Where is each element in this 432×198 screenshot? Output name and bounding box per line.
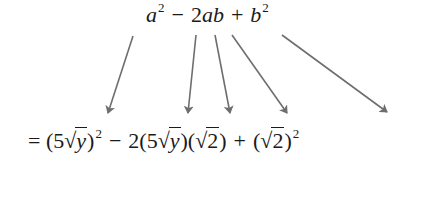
arrow-b-to-sqrt2-2 xyxy=(282,35,387,112)
term2-prefix: 2(5 xyxy=(128,128,157,153)
sqrt-2: √2 xyxy=(260,130,284,152)
var-y: y xyxy=(169,127,181,153)
arrow-2-to-2 xyxy=(188,35,196,113)
exponent: 2 xyxy=(293,126,300,141)
minus-operator: − xyxy=(102,128,128,153)
bottom-expression: = (5√y)2−2(5√y)(√2)+(√2)2 xyxy=(28,130,299,152)
plus-operator: + xyxy=(227,128,253,153)
arrow-b-to-sqrt2 xyxy=(232,35,287,113)
var-y: y xyxy=(75,127,87,153)
exponent: 2 xyxy=(95,126,102,141)
arrow-a-to-5sqrty-2 xyxy=(215,35,230,113)
sqrt-2: √2 xyxy=(195,130,219,152)
equals-sign: = xyxy=(28,128,40,153)
term2-mid: )( xyxy=(181,128,196,153)
sqrt-y: √y xyxy=(158,130,181,152)
term2-close: ) xyxy=(219,128,226,153)
term1-open: (5 xyxy=(46,128,64,153)
arrows xyxy=(0,0,432,198)
number-two: 2 xyxy=(271,127,284,153)
arrow-a-to-5sqrty xyxy=(108,36,133,113)
radical-icon: √ xyxy=(158,128,170,153)
number-two: 2 xyxy=(206,127,219,153)
term3-open: ( xyxy=(253,128,260,153)
sqrt-y: √y xyxy=(64,130,87,152)
term3-close: ) xyxy=(284,128,291,153)
term1-close: ) xyxy=(87,128,94,153)
